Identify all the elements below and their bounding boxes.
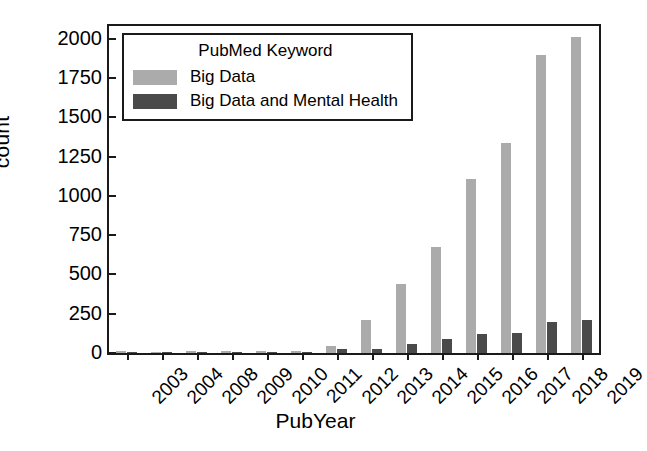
legend-swatch-big-data (133, 70, 177, 85)
bar (186, 351, 197, 353)
bar (326, 346, 337, 353)
legend-swatch-big-data-and-mental-health (133, 94, 177, 109)
y-axis-tick-mark (109, 313, 116, 315)
legend-title: PubMed Keyword (133, 41, 398, 67)
y-axis-tick-label: 250 (69, 303, 109, 323)
x-axis-tick-mark (372, 353, 374, 360)
x-axis-tick-mark (477, 353, 479, 360)
y-axis-tick-mark (109, 38, 116, 40)
x-axis-tick-mark (407, 353, 409, 360)
bar (477, 334, 488, 353)
y-axis-tick-label: 2000 (58, 28, 110, 48)
x-axis-tick-label: 2019 (602, 363, 647, 408)
x-axis-tick-label: 2012 (357, 363, 402, 408)
bar (291, 351, 302, 353)
x-axis-tick-mark (582, 353, 584, 360)
y-axis-tick-mark (109, 273, 116, 275)
x-axis-title: PubYear (0, 409, 631, 433)
bar (407, 344, 418, 353)
y-axis-tick-label: 1000 (58, 185, 110, 205)
bar (536, 55, 547, 353)
bar (256, 351, 267, 353)
bar (582, 320, 593, 353)
x-axis-tick-mark (197, 353, 199, 360)
x-axis-tick-mark (547, 353, 549, 360)
y-axis-tick-label: 1500 (58, 106, 110, 126)
bar (431, 247, 442, 353)
legend-item-big-data: Big Data (133, 67, 398, 87)
y-axis-tick-label: 1250 (58, 146, 110, 166)
x-axis-tick-label: 2018 (567, 363, 612, 408)
y-axis-tick-mark (109, 156, 116, 158)
x-axis-tick-label: 2011 (321, 363, 365, 407)
x-axis-tick-label: 2009 (252, 363, 297, 408)
x-axis-tick-mark (337, 353, 339, 360)
x-axis-tick-label: 2014 (427, 363, 472, 408)
x-axis-tick-label: 2016 (497, 363, 542, 408)
bar (116, 351, 127, 353)
bar (396, 284, 407, 353)
y-axis-tick-label: 750 (69, 224, 109, 244)
x-axis-tick-label: 2003 (147, 363, 192, 408)
bar (466, 179, 477, 353)
y-axis-tick-mark (109, 116, 116, 118)
x-axis-tick-mark (302, 353, 304, 360)
x-axis-tick-label: 2015 (462, 363, 507, 408)
y-axis-tick-mark (109, 352, 116, 354)
legend-label-big-data: Big Data (190, 67, 255, 87)
legend: PubMed Keyword Big Data Big Data and Men… (122, 33, 413, 121)
bar (221, 351, 232, 353)
legend-item-big-data-and-mental-health: Big Data and Mental Health (133, 91, 398, 111)
bar (442, 339, 453, 353)
x-axis-tick-label: 2010 (287, 363, 332, 408)
x-axis-tick-mark (127, 353, 129, 360)
x-axis-tick-label: 2017 (532, 363, 577, 408)
x-axis-tick-mark (442, 353, 444, 360)
bar (571, 37, 582, 353)
x-axis-tick-mark (162, 353, 164, 360)
y-axis-tick-label: 0 (91, 342, 109, 362)
y-axis-tick-mark (109, 195, 116, 197)
x-axis-tick-mark (512, 353, 514, 360)
y-axis-tick-mark (109, 234, 116, 236)
y-axis-tick-mark (109, 77, 116, 79)
bar (501, 143, 512, 353)
x-axis-tick-mark (232, 353, 234, 360)
x-axis-tick-mark (267, 353, 269, 360)
x-axis-tick-label: 2004 (182, 363, 227, 408)
bar (151, 352, 162, 354)
bar (361, 320, 372, 353)
bar (512, 333, 523, 353)
y-axis-tick-label: 1750 (58, 67, 110, 87)
x-axis-tick-label: 2008 (217, 363, 262, 408)
legend-label-big-data-and-mental-health: Big Data and Mental Health (190, 91, 398, 111)
y-axis-tick-label: 500 (69, 263, 109, 283)
x-axis-tick-label: 2013 (392, 363, 437, 408)
bar (547, 322, 558, 353)
y-axis-title: count (0, 72, 14, 212)
plot-area: 025050075010001250150017502000 200320042… (107, 24, 601, 355)
